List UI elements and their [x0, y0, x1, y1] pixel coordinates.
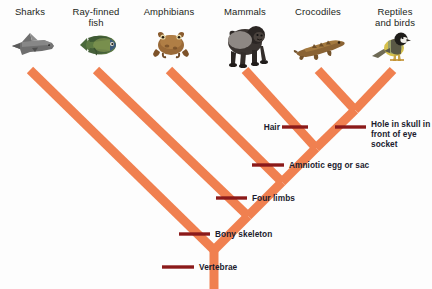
taxon-label-ray-finned-fish: Ray-finned fish	[64, 6, 128, 28]
taxon-label-sharks: Sharks	[0, 6, 60, 17]
branch-branch-reptiles-birds	[355, 70, 393, 110]
shark-icon	[8, 28, 58, 60]
fish-icon	[74, 30, 120, 60]
trait-label-bony-skeleton: Bony skeleton	[215, 229, 305, 239]
frog-icon	[148, 28, 194, 62]
taxon-label-amphibians: Amphibians	[133, 6, 205, 17]
trait-label-hole-in-skull: Hole in skull in front of eye socket	[371, 119, 432, 149]
taxon-label-mammals: Mammals	[212, 6, 278, 17]
taxon-label-crocodiles: Crocodiles	[284, 6, 352, 17]
branch-branch-ray-finned-fish	[96, 70, 248, 216]
gorilla-icon	[218, 20, 272, 70]
phylogenetic-tree-diagram: Sharks Ray-finned fish Amphibians Mammal…	[0, 0, 432, 289]
branch-branch-to-skull-node	[316, 110, 355, 148]
trait-label-amniotic-egg: Amniotic egg or sac	[289, 160, 399, 170]
crocodile-icon	[292, 30, 348, 62]
trait-label-hair: Hair	[248, 122, 280, 132]
bird-icon	[368, 28, 418, 66]
branch-branch-mammals	[245, 70, 316, 148]
branch-branch-crocodiles	[318, 70, 355, 110]
trait-label-vertebrae: Vertebrae	[199, 262, 279, 272]
trait-label-four-limbs: Four limbs	[252, 193, 332, 203]
taxon-label-reptiles-birds: Reptiles and birds	[362, 6, 428, 28]
